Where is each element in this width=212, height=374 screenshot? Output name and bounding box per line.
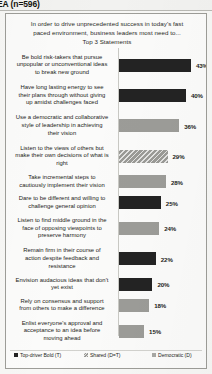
- bar-category-label: Rely on consensus and supportfrom others…: [8, 298, 116, 313]
- plot-area: Be bold risk-takers that pursueunpopular…: [6, 48, 206, 336]
- chart-title: In order to drive unprecedented success …: [14, 19, 200, 47]
- bar-category-line: Enlist everyone's approval and: [22, 320, 103, 326]
- legend-item-label: Top-driver Bold (T): [20, 352, 61, 358]
- bar-democratic[interactable]: [119, 175, 166, 188]
- bar-bold[interactable]: [119, 278, 152, 291]
- bar-category-line: make their own decisions of what is: [15, 152, 108, 158]
- bar-category-line: their plans through without giving: [19, 92, 106, 98]
- bar-democratic[interactable]: [119, 222, 159, 235]
- bar-category-line: Listen to the views of others but: [20, 145, 104, 151]
- legend-item-democratic[interactable]: Democratic (D): [152, 352, 192, 358]
- bar-democratic[interactable]: [119, 325, 144, 338]
- bar-value-label: 15%: [149, 328, 161, 335]
- bar-row: Listen to find middle ground in theface …: [6, 213, 206, 243]
- chart-page: EA (n=596) In order to drive unprecedent…: [0, 0, 212, 374]
- legend-swatch-icon: [152, 353, 156, 357]
- legend-item-bold[interactable]: Top-driver Bold (T): [14, 352, 61, 358]
- bar-value-label: 20%: [157, 281, 169, 288]
- legend-item-label: Democratic (D): [158, 352, 192, 358]
- bar-category-label: Use a democratic and collaborativestyle …: [8, 114, 116, 137]
- bar-category-label: Be bold risk-takers that pursueunpopular…: [8, 54, 116, 77]
- bar-value-label: 40%: [191, 92, 203, 99]
- bar-category-line: Rely on consensus and support: [20, 298, 103, 304]
- bar-category-line: cautiously implement their vision: [19, 182, 104, 188]
- bar-category-line: Remain firm in their course of: [23, 247, 101, 253]
- bar-value-label: 43%: [196, 62, 207, 69]
- bar-category-line: Envision audacious ideas that don't: [16, 277, 109, 283]
- bar-row: Have long lasting energy to seetheir pla…: [6, 80, 206, 110]
- bar-category-line: resistance: [48, 263, 75, 269]
- bar-category-line: face of opposing viewpoints to: [22, 225, 102, 231]
- bar-shared[interactable]: [119, 150, 168, 163]
- bar-category-line: their vision: [48, 130, 76, 136]
- header-divider: [0, 10, 212, 11]
- chart-title-line-1: In order to drive unprecedented success …: [14, 19, 200, 28]
- bar-value-label: 25%: [166, 200, 178, 207]
- bar-value-label: 36%: [184, 123, 196, 130]
- bar-value-label: 29%: [173, 153, 185, 160]
- bar-category-line: from others to make a difference: [19, 305, 104, 311]
- chart-title-line-2: paced environment, business leaders most…: [14, 28, 200, 37]
- bar-category-line: to break new ground: [35, 69, 89, 75]
- bar-category-line: yet exist: [51, 284, 73, 290]
- chart-legend: Top-driver Bold (T)Shared (D=T)Democrati…: [6, 352, 206, 364]
- bar-democratic[interactable]: [119, 119, 179, 132]
- bar-bold[interactable]: [119, 196, 161, 209]
- bar-bold[interactable]: [119, 89, 186, 102]
- bar-category-label: Take incremental steps tocautiously impl…: [8, 174, 116, 189]
- bar-value-label: 24%: [164, 225, 176, 232]
- bar-category-line: up amidst challenges faced: [26, 99, 98, 105]
- bar-bold[interactable]: [119, 252, 156, 265]
- bar-row: Use a democratic and collaborativestyle …: [6, 111, 206, 141]
- bar-category-line: preserve harmony: [38, 232, 86, 238]
- bar-category-line: Dare to be different and willing to: [19, 195, 106, 201]
- bar-category-line: style of leadership in achieving: [22, 122, 103, 128]
- chart-title-line-3: Top 3 Statements: [14, 37, 200, 46]
- bar-category-label: Enlist everyone's approval andacceptance…: [8, 320, 116, 343]
- bar-category-label: Have long lasting energy to seetheir pla…: [8, 84, 116, 107]
- bar-value-label: 18%: [154, 302, 166, 309]
- legend-divider: [10, 350, 202, 351]
- bar-category-label: Listen to find middle ground in theface …: [8, 217, 116, 240]
- bar-bold[interactable]: [119, 59, 191, 72]
- bar-category-line: Listen to find middle ground in the: [17, 217, 106, 223]
- bar-category-line: acceptance to an idea before: [24, 327, 101, 333]
- bar-category-line: Use a democratic and collaborative: [16, 114, 109, 120]
- bar-row: Remain firm in their course ofaction des…: [6, 244, 206, 274]
- bar-democratic[interactable]: [119, 299, 149, 312]
- legend-swatch-icon: [84, 353, 88, 357]
- bar-row: Dare to be different and willing tochall…: [6, 192, 206, 213]
- bar-row: Take incremental steps tocautiously impl…: [6, 171, 206, 192]
- bar-category-line: action despite feedback and: [25, 255, 99, 261]
- bar-row: Envision audacious ideas that don'tyet e…: [6, 274, 206, 295]
- bar-category-line: unpopular or unconventional ideas: [17, 61, 108, 67]
- bar-category-label: Dare to be different and willing tochall…: [8, 195, 116, 210]
- page-header-title: EA (n=596): [0, 0, 40, 10]
- legend-item-shared[interactable]: Shared (D=T): [84, 352, 120, 358]
- bar-value-label: 22%: [161, 256, 173, 263]
- bar-category-line: Have long lasting energy to see: [20, 84, 103, 90]
- bar-category-line: right: [56, 160, 68, 166]
- legend-swatch-icon: [14, 353, 18, 357]
- bar-row: Listen to the views of others butmake th…: [6, 141, 206, 171]
- bar-row: Rely on consensus and supportfrom others…: [6, 295, 206, 316]
- chart-frame: In order to drive unprecedented success …: [5, 13, 207, 369]
- bar-category-line: Be bold risk-takers that pursue: [22, 54, 103, 60]
- bar-category-label: Remain firm in their course ofaction des…: [8, 247, 116, 270]
- bar-row: Be bold risk-takers that pursueunpopular…: [6, 50, 206, 80]
- bar-category-line: Take incremental steps to: [28, 174, 95, 180]
- bar-category-label: Listen to the views of others butmake th…: [8, 145, 116, 168]
- bar-row: Enlist everyone's approval andacceptance…: [6, 316, 206, 346]
- bar-category-label: Envision audacious ideas that don'tyet e…: [8, 277, 116, 292]
- bar-value-label: 28%: [171, 179, 183, 186]
- legend-item-label: Shared (D=T): [90, 352, 120, 358]
- bar-category-line: challenge general opinion: [28, 203, 96, 209]
- bar-category-line: moving ahead: [43, 335, 80, 341]
